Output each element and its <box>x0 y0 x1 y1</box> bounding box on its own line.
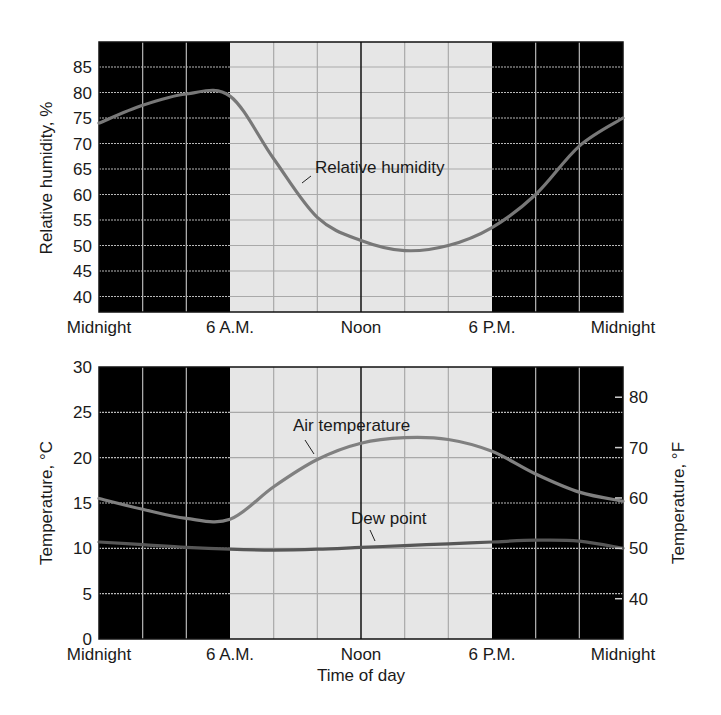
x-tick-label: Midnight <box>591 645 656 664</box>
y-tick-label: 75 <box>73 109 92 128</box>
x-tick-label: 6 A.M. <box>206 645 254 664</box>
dew-point-label: Dew point <box>351 509 427 528</box>
air-temperature-label: Air temperature <box>293 416 410 435</box>
x-tick-label: Midnight <box>67 318 132 337</box>
x-tick-label: Midnight <box>591 318 656 337</box>
y-tick-label: 10 <box>73 539 92 558</box>
y-tick-label: 25 <box>73 403 92 422</box>
y-tick-label: 30 <box>73 358 92 377</box>
x-tick-label: 6 P.M. <box>469 318 516 337</box>
y-tick-label: 80 <box>73 84 92 103</box>
f-tick-label: 50 <box>629 539 648 558</box>
f-tick-label: 60 <box>629 489 648 508</box>
y-tick-label: 60 <box>73 186 92 205</box>
y-tick-label: 50 <box>73 237 92 256</box>
f-tick-label: 80 <box>629 388 648 407</box>
x-axis-title: Time of day <box>317 666 406 685</box>
chart-canvas: 40455055606570758085Midnight6 A.M.Noon6 … <box>0 0 721 715</box>
y-tick-label: 20 <box>73 449 92 468</box>
f-tick-label: 70 <box>629 439 648 458</box>
y-tick-label: 70 <box>73 135 92 154</box>
y-tick-label: 15 <box>73 494 92 513</box>
y-tick-label: 5 <box>83 585 92 604</box>
y-tick-label: 45 <box>73 262 92 281</box>
x-tick-label: Noon <box>341 318 382 337</box>
x-tick-label: Noon <box>341 645 382 664</box>
y-tick-label: 65 <box>73 160 92 179</box>
temperature-f-y-axis-title: Temperature, °F <box>669 442 688 564</box>
x-tick-label: 6 A.M. <box>206 318 254 337</box>
relative-humidity-label: Relative humidity <box>315 158 445 177</box>
temperature-c-y-axis-title: Temperature, °C <box>37 441 56 565</box>
y-tick-label: 40 <box>73 288 92 307</box>
f-tick-label: 40 <box>629 590 648 609</box>
y-tick-label: 85 <box>73 58 92 77</box>
x-tick-label: Midnight <box>67 645 132 664</box>
x-tick-label: 6 P.M. <box>469 645 516 664</box>
humidity-plot: 40455055606570758085Midnight6 A.M.Noon6 … <box>67 42 656 337</box>
y-tick-label: 55 <box>73 211 92 230</box>
chart-figure: 40455055606570758085Midnight6 A.M.Noon6 … <box>0 0 721 715</box>
humidity-y-axis-title: Relative humidity, % <box>37 102 56 255</box>
